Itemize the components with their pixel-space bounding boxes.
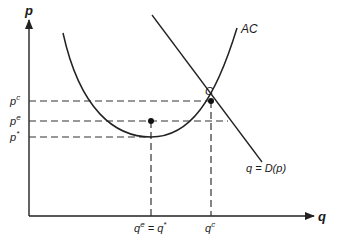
point-e [148, 118, 154, 124]
pc-label: pc [9, 93, 20, 107]
pstar-label: p* [9, 129, 20, 143]
qe-qstar-label: qe = q* [134, 220, 167, 234]
ac-label: AC [240, 22, 258, 36]
cost-demand-diagram: p q AC q = D(p) C pc pe p* qe = q* qc [0, 0, 340, 241]
x-axis-label: q [318, 209, 326, 224]
qc-label: qc [205, 220, 215, 234]
pe-label: pe [9, 113, 21, 127]
y-axis-label: p [24, 3, 33, 18]
point-c-label: C [205, 85, 213, 97]
diagram-canvas: p q AC q = D(p) C pc pe p* qe = q* qc [0, 0, 340, 241]
point-c [208, 98, 214, 104]
demand-label: q = D(p) [246, 162, 286, 174]
